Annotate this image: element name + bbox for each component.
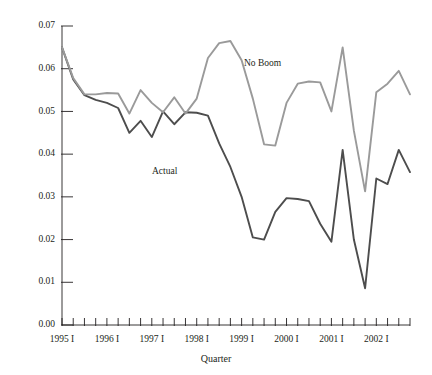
series-annotation-actual: Actual <box>152 166 178 176</box>
y-axis-tick-label: 0.05 <box>38 106 55 116</box>
y-axis-tick-label: 0.02 <box>38 234 55 244</box>
chart-container: 0.000.010.020.030.040.050.060.07 1995 I1… <box>0 0 432 375</box>
series-annotation-no-boom: No Boom <box>244 58 282 68</box>
x-axis-tick-label: 2000 I <box>274 334 299 344</box>
y-axis-tick-label: 0.04 <box>38 148 55 158</box>
y-axis-tick-label: 0.07 <box>38 20 55 30</box>
series-annotations: No BoomActual <box>152 58 282 176</box>
x-axis-tick-label: 1996 I <box>95 334 120 344</box>
y-axis-tick-labels: 0.000.010.020.030.040.050.060.07 <box>38 20 55 329</box>
x-axis-tick-label: 1998 I <box>184 334 209 344</box>
x-axis-tick-label: 1997 I <box>140 334 165 344</box>
y-axis-tick-label: 0.03 <box>38 191 55 201</box>
x-axis-title: Quarter <box>201 353 232 364</box>
x-axis-tick-labels: 1995 I1996 I1997 I1998 I1999 I2000 I2001… <box>50 334 389 344</box>
x-axis-tick-label: 1999 I <box>229 334 254 344</box>
y-axis-tick-label: 0.00 <box>38 319 55 329</box>
y-axis-tick-label: 0.01 <box>38 276 55 286</box>
axes <box>62 26 410 325</box>
series-line-no-boom <box>62 41 410 191</box>
x-axis-tick-label: 2002 I <box>364 334 389 344</box>
data-series-group <box>62 41 410 288</box>
y-axis-tick-label: 0.06 <box>38 63 55 73</box>
line-chart: 0.000.010.020.030.040.050.060.07 1995 I1… <box>0 0 432 375</box>
series-line-actual <box>62 47 410 288</box>
x-axis-tick-label: 2001 I <box>319 334 344 344</box>
x-axis-tick-label: 1995 I <box>50 334 75 344</box>
